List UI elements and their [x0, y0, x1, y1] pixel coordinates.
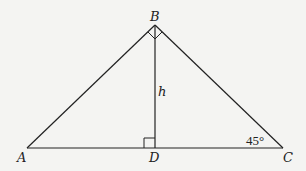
label-c: C	[283, 150, 293, 165]
diagram-svg: B A D C h 45°	[0, 0, 306, 171]
label-b: B	[149, 9, 160, 24]
label-h: h	[158, 84, 166, 99]
side-bc	[155, 25, 283, 148]
right-angle-mark-d	[144, 138, 155, 148]
label-d: D	[148, 150, 160, 165]
label-a: A	[16, 150, 26, 165]
angle-c-label: 45°	[246, 133, 264, 148]
side-ab	[27, 25, 155, 148]
triangle-diagram: B A D C h 45°	[0, 0, 306, 171]
